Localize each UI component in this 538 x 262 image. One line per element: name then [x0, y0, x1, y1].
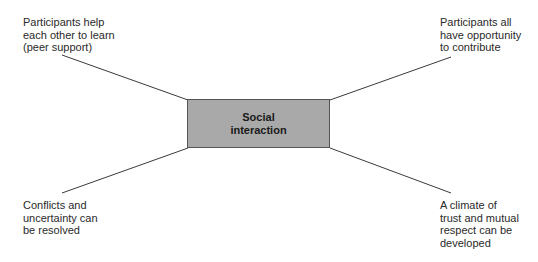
connector-bottom-right	[330, 148, 451, 193]
center-node-social-interaction: Social interaction	[187, 99, 330, 148]
connector-top-right	[330, 57, 451, 100]
center-node-label: Social interaction	[230, 111, 286, 137]
connector-top-left	[62, 55, 188, 100]
node-conflicts-resolved: Conflicts and uncertainty can be resolve…	[23, 199, 98, 237]
node-trust-respect: A climate of trust and mutual respect ca…	[440, 199, 519, 249]
connector-bottom-left	[62, 148, 188, 193]
node-peer-support: Participants help each other to learn (p…	[23, 16, 115, 54]
node-opportunity-to-contribute: Participants all have opportunity to con…	[440, 16, 521, 54]
